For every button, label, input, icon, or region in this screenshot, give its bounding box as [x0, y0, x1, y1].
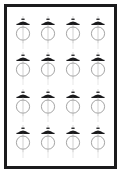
panel-inner-border: Pendant lamp Pendant lamp: [7, 7, 114, 166]
pendant-lamp-catalog-panel: Pendant lamp Pendant lamp: [4, 4, 117, 169]
lamp-grid-item[interactable]: Pendant lamp: [61, 14, 86, 50]
screenshot-root: Pendant lamp Pendant lamp: [0, 0, 121, 173]
lamp-grid-item[interactable]: Pendant lamp: [11, 50, 36, 86]
pendant-lamp-icon: [88, 89, 108, 123]
pendant-lamp-icon: [13, 125, 33, 159]
lamp-grid-item[interactable]: Pendant lamp: [85, 87, 110, 123]
pendant-lamp-icon: [38, 16, 58, 50]
lamp-grid-item[interactable]: Pendant lamp: [85, 50, 110, 86]
pendant-lamp-icon: [13, 89, 33, 123]
pendant-lamp-icon: [63, 125, 83, 159]
pendant-lamp-icon: [63, 52, 83, 86]
pendant-lamp-icon: [88, 16, 108, 50]
pendant-lamp-icon: [63, 16, 83, 50]
pendant-lamp-icon: [13, 52, 33, 86]
lamp-grid-item[interactable]: Pendant lamp: [61, 123, 86, 159]
pendant-lamp-icon: [38, 89, 58, 123]
pendant-lamp-icon: [63, 89, 83, 123]
pendant-lamp-grid: Pendant lamp Pendant lamp: [11, 14, 110, 159]
lamp-grid-item[interactable]: Pendant lamp: [61, 50, 86, 86]
pendant-lamp-icon: [13, 16, 33, 50]
lamp-grid-item[interactable]: Pendant lamp: [85, 123, 110, 159]
lamp-grid-item[interactable]: Pendant lamp: [11, 123, 36, 159]
pendant-lamp-icon: [88, 52, 108, 86]
pendant-lamp-icon: [38, 125, 58, 159]
lamp-grid-item[interactable]: Pendant lamp: [36, 123, 61, 159]
lamp-grid-item[interactable]: Pendant lamp: [85, 14, 110, 50]
lamp-grid-item[interactable]: Pendant lamp: [61, 87, 86, 123]
lamp-grid-item[interactable]: Pendant lamp: [11, 87, 36, 123]
lamp-grid-item[interactable]: Pendant lamp: [36, 14, 61, 50]
lamp-grid-item[interactable]: Pendant lamp: [11, 14, 36, 50]
lamp-grid-item[interactable]: Pendant lamp: [36, 50, 61, 86]
pendant-lamp-icon: [88, 125, 108, 159]
lamp-grid-item[interactable]: Pendant lamp: [36, 87, 61, 123]
pendant-lamp-icon: [38, 52, 58, 86]
